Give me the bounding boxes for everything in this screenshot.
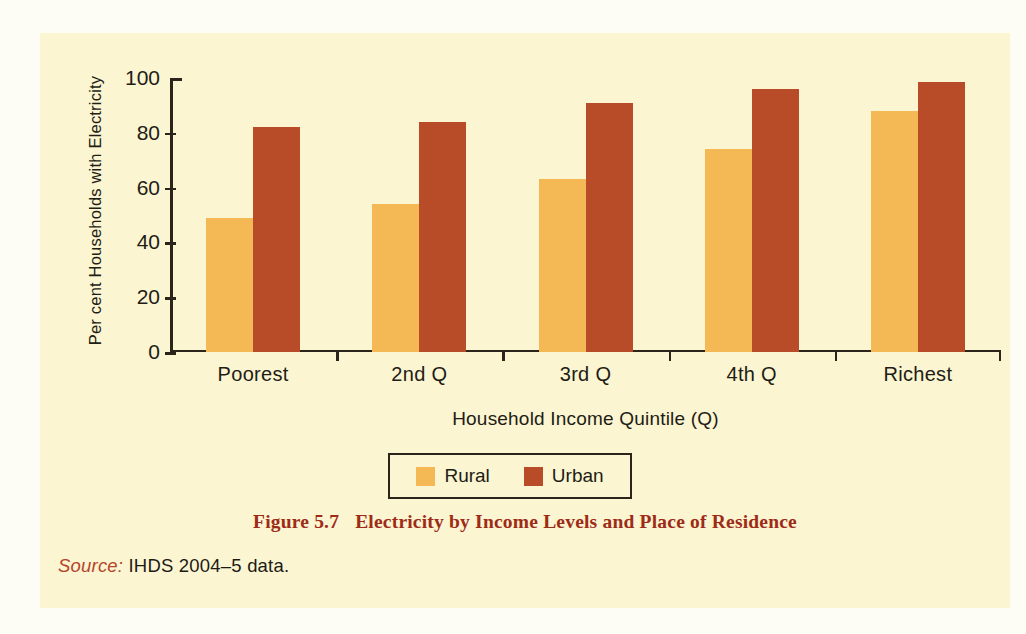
- bar-rural[interactable]: [871, 111, 918, 352]
- legend-label: Rural: [444, 465, 489, 487]
- bar-series-container: [170, 78, 1001, 352]
- x-tick-label: 2nd Q: [334, 363, 504, 386]
- bar-rural[interactable]: [705, 149, 752, 352]
- x-tick-label: 4th Q: [667, 363, 837, 386]
- x-tick-label: Poorest: [168, 363, 338, 386]
- legend-label: Urban: [552, 465, 604, 487]
- bar-urban[interactable]: [253, 127, 300, 352]
- x-tick-label: 3rd Q: [501, 363, 671, 386]
- y-tick-label: 80: [100, 121, 160, 145]
- source-label: Source:: [58, 555, 123, 576]
- x-axis-category-labels: Poorest2nd Q3rd Q4th QRichest: [170, 363, 1001, 397]
- bar-rural[interactable]: [206, 218, 253, 352]
- y-axis-tick: [165, 352, 176, 355]
- legend-item-rural[interactable]: Rural: [416, 465, 489, 487]
- bar-rural[interactable]: [372, 204, 419, 352]
- bar-rural[interactable]: [539, 179, 586, 352]
- y-tick-label: 20: [100, 285, 160, 309]
- bar-group: [206, 78, 300, 352]
- bar-urban[interactable]: [918, 82, 965, 352]
- legend-swatch-icon: [524, 467, 543, 486]
- bar-group: [372, 78, 466, 352]
- figure-number: Figure 5.7: [253, 511, 339, 532]
- y-tick-label: 40: [100, 230, 160, 254]
- source-text: IHDS 2004–5 data.: [129, 555, 290, 576]
- bar-group: [871, 78, 965, 352]
- bar-group: [539, 78, 633, 352]
- legend-item-urban[interactable]: Urban: [524, 465, 604, 487]
- x-axis-title: Household Income Quintile (Q): [170, 408, 1001, 430]
- source-note: Source: IHDS 2004–5 data.: [58, 555, 289, 577]
- bar-urban[interactable]: [586, 103, 633, 352]
- y-tick-label: 0: [100, 340, 160, 364]
- y-axis-tick-labels: 020406080100: [98, 33, 160, 433]
- chart-legend: RuralUrban: [388, 453, 632, 499]
- x-tick-label: Richest: [833, 363, 1003, 386]
- bar-urban[interactable]: [419, 122, 466, 352]
- bar-group: [705, 78, 799, 352]
- y-tick-label: 60: [100, 176, 160, 200]
- bar-urban[interactable]: [752, 89, 799, 352]
- y-tick-label: 100: [100, 66, 160, 90]
- figure-panel: Per cent Households with Electricity 020…: [40, 33, 1010, 608]
- figure-caption: Figure 5.7Electricity by Income Levels a…: [40, 511, 1010, 533]
- legend-swatch-icon: [416, 467, 435, 486]
- figure-caption-text: Electricity by Income Levels and Place o…: [355, 511, 797, 532]
- chart-plot-area: Per cent Households with Electricity 020…: [40, 33, 1010, 433]
